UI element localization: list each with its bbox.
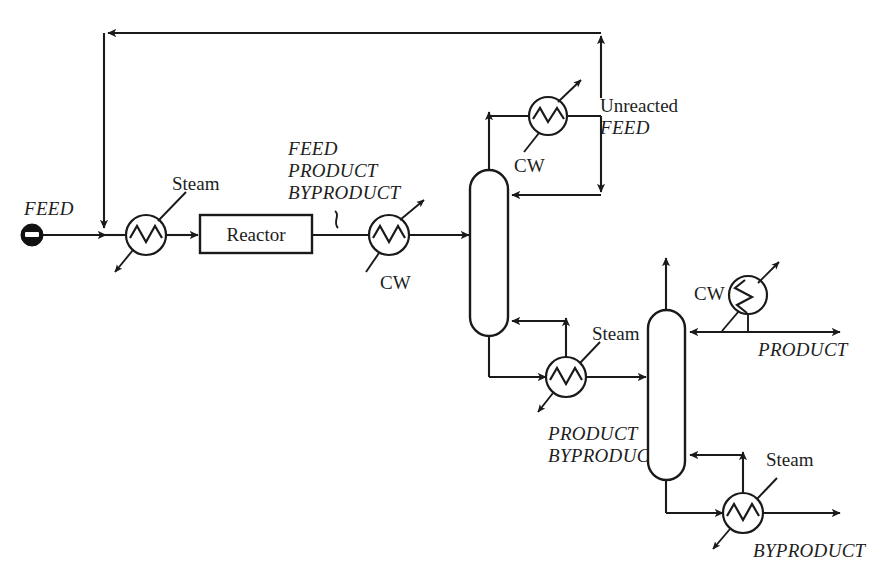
first-distillation-column	[470, 170, 508, 336]
feed-source-marker	[21, 224, 43, 246]
column1-reboiler-condensate	[538, 393, 553, 412]
column2-condenser-cw-supply	[722, 311, 739, 331]
column1-condenser	[529, 97, 567, 135]
label-feed-inlet: FEED	[23, 198, 74, 219]
label-feed-preheater-steam: Steam	[172, 173, 220, 194]
label-effluent-feed: FEED	[287, 138, 338, 159]
column1-condenser-cw-return	[558, 80, 581, 102]
feed-preheater-heat-exchanger	[126, 215, 166, 255]
label-product-outlet: PRODUCT	[757, 339, 849, 360]
reactor-vessel: Reactor	[200, 215, 312, 253]
preheater-steam-supply-line	[158, 192, 186, 221]
label-effluent-byproduct: BYPRODUCT	[288, 182, 402, 203]
column2-reboiler-steam-supply	[757, 478, 777, 499]
label-column1-condenser-cw: CW	[514, 155, 545, 176]
column2-shell	[648, 310, 685, 480]
reactor-effluent-cooler	[369, 215, 409, 255]
second-distillation-column	[648, 310, 685, 480]
pfd-canvas: Steam Reactor FEED PRODUCT BYPRODUCT CW …	[0, 0, 886, 571]
label-unreacted: Unreacted	[600, 95, 679, 116]
reactor-label: Reactor	[226, 224, 286, 245]
column1-shell	[470, 170, 508, 336]
column1-reboiler-steam-supply	[580, 342, 600, 363]
process-flow-diagram: Steam Reactor FEED PRODUCT BYPRODUCT CW …	[0, 0, 886, 571]
label-unreacted-feed: FEED	[599, 117, 650, 138]
label-column1-reboiler-steam: Steam	[592, 323, 640, 344]
column2-reboiler-condensate	[713, 529, 730, 549]
reactor-cooler-cw-return	[400, 200, 424, 220]
label-effluent-product: PRODUCT	[287, 160, 379, 181]
column2-condenser-cw-return	[758, 262, 779, 283]
label-reactor-cooler-cw: CW	[380, 272, 411, 293]
column1-condenser-cw-supply	[524, 133, 539, 152]
label-column2-condenser-cw: CW	[694, 283, 725, 304]
label-col1-bottoms-product: PRODUCT	[547, 423, 639, 444]
reactor-cooler-cw-supply	[366, 253, 379, 272]
column2-condenser	[729, 276, 767, 314]
label-column2-reboiler-steam: Steam	[766, 449, 814, 470]
label-col1-bottoms-byproduct: BYPRODUCT	[548, 445, 662, 466]
label-byproduct-outlet: BYPRODUCT	[753, 540, 867, 561]
stream-break-icon-effluent	[335, 211, 338, 228]
feed-source-dash	[25, 232, 39, 237]
preheater-condensate-line	[115, 250, 133, 272]
